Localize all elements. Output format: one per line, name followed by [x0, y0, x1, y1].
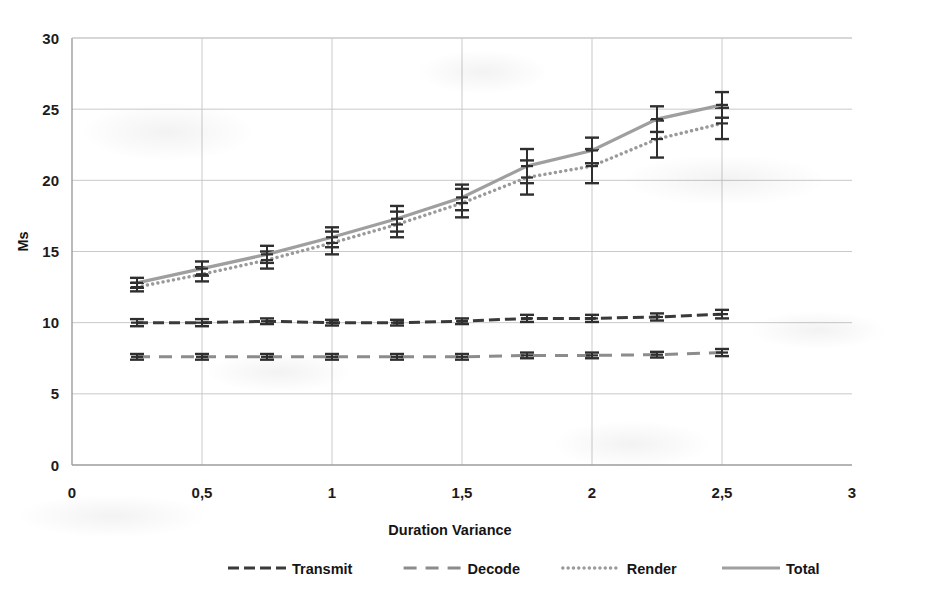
series-transmit [130, 310, 729, 326]
y-tick-label: 0 [51, 457, 59, 474]
series-decode [130, 349, 729, 360]
y-axis-tick-labels: 051015202530 [42, 30, 59, 474]
error-bar [130, 354, 144, 360]
error-bar [715, 310, 729, 319]
series-line-transmit [137, 314, 722, 323]
error-bar [260, 318, 274, 324]
series-total [130, 92, 729, 288]
error-bar [715, 92, 729, 118]
error-bar [325, 354, 339, 360]
data-series-layer [130, 92, 729, 360]
error-bar [520, 315, 534, 322]
y-tick-label: 10 [42, 314, 59, 331]
error-bar [650, 352, 664, 358]
x-tick-label: 2 [588, 484, 596, 501]
error-bar [195, 354, 209, 360]
error-bar [585, 315, 599, 322]
x-tick-label: 0,5 [192, 484, 213, 501]
error-bar [390, 354, 404, 360]
error-bar [260, 354, 274, 360]
legend-label-total: Total [786, 561, 820, 577]
x-axis-tick-labels: 00,511,522,53 [68, 484, 856, 501]
line-chart: 051015202530 00,511,522,53 Duration Vari… [0, 0, 929, 600]
error-bar [650, 106, 664, 132]
x-tick-label: 0 [68, 484, 76, 501]
error-bar [130, 319, 144, 326]
error-bar [390, 320, 404, 326]
chart-legend: TransmitDecodeRenderTotal [228, 561, 820, 577]
legend-item-total[interactable]: Total [722, 561, 820, 577]
grid-lines [72, 38, 852, 465]
error-bar [390, 206, 404, 232]
error-bar [585, 138, 599, 164]
error-bar [455, 354, 469, 360]
x-tick-label: 1,5 [452, 484, 473, 501]
error-bar [650, 313, 664, 320]
error-bar [520, 353, 534, 359]
x-tick-label: 2,5 [712, 484, 733, 501]
legend-label-transmit: Transmit [292, 561, 353, 577]
series-line-total [137, 105, 722, 283]
legend-item-render[interactable]: Render [563, 561, 677, 577]
x-axis-title: Duration Variance [388, 522, 511, 538]
y-tick-label: 25 [42, 101, 59, 118]
error-bar [455, 318, 469, 324]
legend-label-decode: Decode [468, 561, 520, 577]
x-tick-label: 1 [328, 484, 336, 501]
error-bar [195, 319, 209, 326]
y-tick-label: 5 [51, 385, 59, 402]
error-bar [585, 353, 599, 359]
legend-item-decode[interactable]: Decode [404, 561, 520, 577]
y-tick-label: 15 [42, 243, 59, 260]
error-bar [325, 320, 339, 326]
y-axis-title: Ms [15, 231, 31, 251]
y-tick-label: 30 [42, 30, 59, 47]
y-tick-label: 20 [42, 172, 59, 189]
x-tick-label: 3 [848, 484, 856, 501]
axis-titles: Duration VarianceMs [15, 231, 512, 538]
error-bar [715, 349, 729, 356]
legend-label-render: Render [627, 561, 677, 577]
series-line-decode [137, 353, 722, 357]
legend-item-transmit[interactable]: Transmit [228, 561, 353, 577]
